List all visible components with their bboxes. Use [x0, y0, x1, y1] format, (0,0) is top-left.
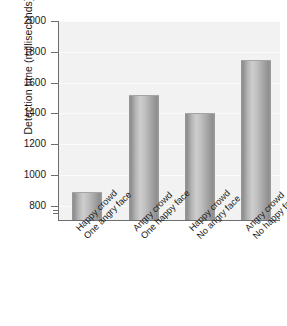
- y-axis-tick-label: 2000: [10, 15, 46, 26]
- y-axis-tick: [51, 144, 58, 145]
- y-axis-tick-label: 1200: [10, 138, 46, 149]
- gridline: [59, 21, 280, 22]
- gridline: [59, 52, 280, 53]
- y-axis-tick-label: 1600: [10, 77, 46, 88]
- y-axis-tick-label: 1400: [10, 107, 46, 118]
- y-axis-tick: [51, 175, 58, 176]
- y-axis-tick: [51, 52, 58, 53]
- y-axis-tick: [51, 21, 58, 22]
- y-axis-tick: [51, 83, 58, 84]
- y-axis-tick-label: 800: [10, 200, 46, 211]
- y-axis-tick: [51, 206, 58, 207]
- y-axis-tick: [51, 113, 58, 114]
- y-axis-tick-label: 1000: [10, 169, 46, 180]
- bar-chart-figure: Detection time (milliseconds) 2000180016…: [0, 0, 287, 326]
- y-axis-tick-label: 1800: [10, 46, 46, 57]
